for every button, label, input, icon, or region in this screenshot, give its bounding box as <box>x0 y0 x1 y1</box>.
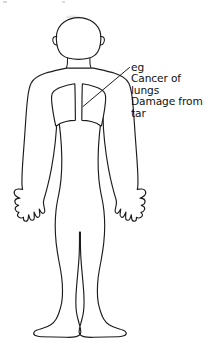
callout-line-4: Damage from <box>131 96 208 107</box>
neck-right-edge <box>90 58 91 68</box>
scan-speck <box>3 1 7 3</box>
callout-line-5: tar <box>131 108 208 119</box>
left-lung-lobe <box>52 84 76 126</box>
neck-left-edge <box>66 58 67 68</box>
lung-damage-callout-text: eg Cancer of lungs Damage from tar <box>131 62 208 119</box>
torso-and-limbs-outline <box>14 68 146 337</box>
head-outline <box>56 18 101 60</box>
scan-artifact-group <box>3 1 80 19</box>
human-body-illustration <box>0 0 208 349</box>
body-diagram-canvas: eg Cancer of lungs Damage from tar <box>0 0 208 349</box>
scan-speck <box>62 1 65 3</box>
